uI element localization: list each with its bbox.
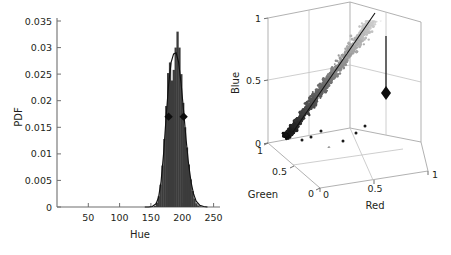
scatter-point — [337, 69, 339, 71]
y-tick-label-2: 0.01 — [31, 148, 52, 159]
scatter-point — [380, 19, 382, 21]
scatter-point — [315, 93, 317, 95]
x-tick-label-250: 250 — [205, 212, 223, 223]
red-tick-label-0: 0 — [323, 189, 329, 200]
scatter-point — [371, 21, 373, 23]
scatter-point — [301, 113, 303, 115]
scatter-point — [310, 99, 312, 101]
scatter-point — [317, 90, 319, 92]
scatter-point — [347, 59, 349, 61]
scatter-point — [366, 27, 368, 29]
red-axis-title: Red — [366, 200, 385, 211]
scatter-point — [287, 137, 290, 140]
scatter-point — [319, 95, 322, 98]
red-tick-label-1: 1 — [432, 169, 438, 180]
scatter-point — [377, 17, 380, 20]
scatter-point — [338, 54, 340, 56]
scatter-point — [366, 31, 368, 33]
scatter-point — [354, 46, 357, 49]
scatter-point — [378, 7, 380, 9]
scatter-point-outlier — [310, 136, 313, 139]
scatter-point — [371, 30, 374, 33]
scatter-point — [363, 43, 365, 45]
scatter-point — [365, 16, 368, 19]
scatter-point — [364, 36, 367, 39]
scatter-point — [361, 22, 363, 24]
scatter-point — [356, 42, 359, 45]
scatter-point — [355, 51, 358, 54]
y-tick-group — [57, 21, 61, 207]
green-axis-title: Green — [248, 189, 278, 200]
scatter-point — [334, 63, 336, 65]
scatter-point-outlier — [301, 139, 304, 142]
scatter-point — [329, 81, 332, 84]
scatter-point — [368, 38, 370, 40]
scatter-point — [374, 23, 376, 25]
blue-tick-label-05: 0.5 — [246, 75, 261, 86]
scatter-point — [350, 44, 352, 46]
blue-axis-group — [264, 18, 268, 144]
scatter-point — [349, 34, 352, 37]
scatter-point — [348, 41, 350, 43]
scatter-point — [376, 12, 379, 15]
scatter-point — [377, 17, 380, 20]
x-tick-label-150: 150 — [142, 212, 160, 223]
scatter-point — [378, 13, 381, 16]
scatter-point-outlier — [342, 140, 345, 143]
scatter-point — [327, 76, 330, 79]
scatter-point — [294, 119, 297, 122]
scatter-point — [327, 73, 330, 76]
green-tick-label-1: 1 — [257, 145, 263, 156]
scatter-point — [295, 129, 298, 132]
scatter-point — [374, 14, 377, 17]
scatter-point — [378, 17, 380, 19]
scatter-point — [383, 7, 386, 10]
histogram-bar — [199, 206, 201, 207]
scatter-point — [379, 11, 381, 13]
scatter-point — [358, 45, 361, 48]
figure-container: 0 0.005 0.01 0.015 0.02 0.025 0.03 0.035… — [0, 0, 451, 255]
rgb-scatter3d-svg: 1 0.5 0 Blue 1 0.5 0 Green 0 0.5 1 R — [225, 0, 451, 255]
scatter-point — [302, 110, 304, 112]
scatter-point — [376, 16, 378, 18]
scatter-point — [308, 114, 310, 116]
y-axis-title: PDF — [13, 107, 24, 127]
scatter-point — [366, 19, 368, 21]
scatter-point — [354, 44, 356, 46]
scatter-point-outlier — [364, 125, 367, 128]
y-tick-label-6: 0.03 — [31, 42, 52, 53]
y-tick-label-1: 0.005 — [25, 175, 52, 186]
x-tick-label-100: 100 — [111, 212, 129, 223]
scatter-point — [336, 60, 339, 63]
scatter-point — [284, 134, 286, 136]
red-tick-label-05: 0.5 — [367, 183, 382, 194]
scatter-point — [312, 97, 315, 100]
scatter-point — [375, 15, 377, 17]
green-tick-label-0: 0 — [308, 188, 314, 199]
scatter-point — [353, 50, 355, 52]
scatter-point-outlier — [355, 132, 358, 135]
scatter-point — [376, 15, 378, 17]
panel-hue-pdf: 0 0.005 0.01 0.015 0.02 0.025 0.03 0.035… — [0, 0, 225, 255]
rgb-point-cloud — [282, 7, 386, 150]
y-tick-label-0: 0 — [46, 202, 52, 213]
principal-axis-line — [293, 13, 375, 132]
scatter-point — [326, 90, 328, 92]
scatter-point — [374, 17, 376, 19]
y-tick-label-5: 0.025 — [25, 69, 52, 80]
x-tick-label-200: 200 — [173, 212, 191, 223]
scatter-point — [312, 105, 315, 108]
scatter-point — [366, 18, 368, 20]
blue-axis-title: Blue — [230, 72, 241, 94]
scatter-point-outlier — [320, 130, 323, 133]
scatter-point — [290, 133, 293, 136]
scatter-point — [306, 101, 309, 104]
scatter-point — [373, 19, 376, 22]
scatter-point — [369, 12, 371, 14]
y-tick-label-3: 0.015 — [25, 122, 52, 133]
scatter-point — [308, 103, 310, 105]
scatter-point — [378, 7, 381, 10]
scatter-point-outlier — [328, 147, 331, 150]
scatter-point — [376, 15, 378, 17]
green-tick-label-05: 0.5 — [272, 166, 287, 177]
